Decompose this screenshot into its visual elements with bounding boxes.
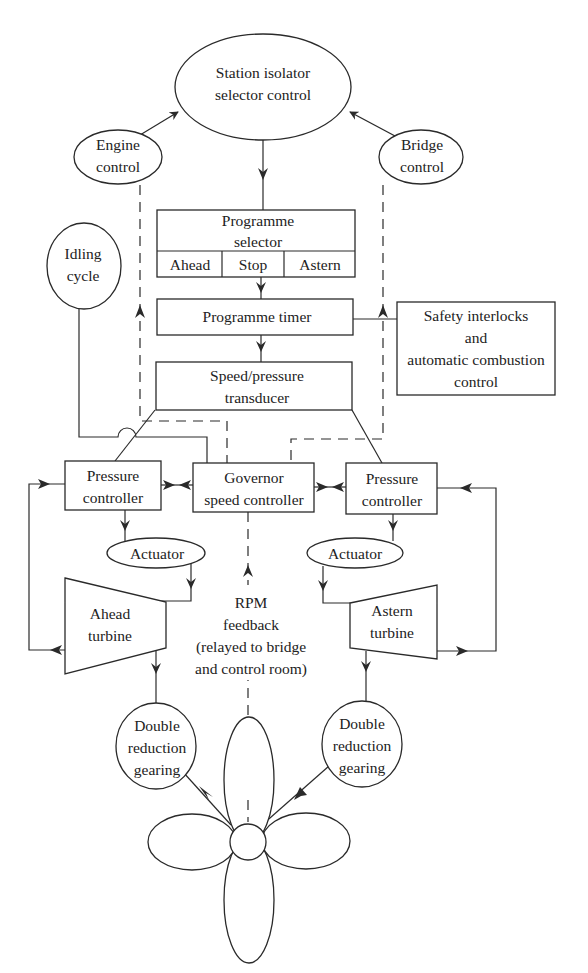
loop-right (437, 488, 496, 651)
label: speed controller (204, 491, 304, 508)
node-pressure-controller-right: Pressure controller (346, 463, 437, 514)
label: transducer (225, 389, 290, 406)
label: Engine (96, 136, 140, 153)
label: Pressure (87, 467, 140, 484)
label: Double (134, 717, 180, 734)
option-stop: Stop (239, 256, 268, 273)
node-station-isolator: Station isolator selector control (175, 34, 351, 140)
label: and (465, 329, 488, 346)
label: control (400, 158, 444, 175)
label: Idling (64, 245, 101, 262)
label: Actuator (328, 545, 383, 562)
label: Ahead (90, 605, 131, 622)
label: Bridge (401, 136, 443, 153)
node-actuator-right: Actuator (307, 538, 403, 568)
node-programme-selector: Programme selector Ahead Stop Astern (157, 210, 355, 277)
label: selector (234, 233, 283, 250)
node-safety-interlocks: Safety interlocks and automatic combusti… (397, 302, 555, 395)
label: (relayed to bridge (196, 638, 306, 656)
node-pressure-controller-left: Pressure controller (65, 461, 161, 510)
loop-left (29, 484, 66, 650)
node-actuator-left: Actuator (107, 538, 205, 568)
arrow-engine-to-isolator (140, 112, 178, 135)
label: Actuator (130, 545, 185, 562)
label: automatic combustion (407, 351, 545, 368)
line-transducer-to-pc-left (115, 410, 155, 461)
label: Governor (224, 469, 284, 486)
label: feedback (223, 616, 279, 633)
node-idling-cycle: Idling cycle (47, 223, 121, 309)
node-gearing-left: Double reduction gearing (116, 703, 196, 789)
line-actuator-to-astern (323, 566, 350, 603)
label: turbine (370, 624, 414, 641)
label: Pressure (366, 470, 419, 487)
label: control (96, 158, 140, 175)
label: reduction (128, 739, 187, 756)
label: gearing (134, 761, 181, 778)
label: selector control (215, 86, 311, 103)
label: Double (339, 715, 385, 732)
option-astern: Astern (299, 256, 341, 273)
label: RPM (235, 594, 268, 611)
node-ahead-turbine: Ahead turbine (65, 578, 166, 674)
node-programme-timer: Programme timer (157, 299, 353, 335)
label: reduction (333, 737, 392, 754)
label: and control room) (195, 660, 307, 678)
label: control (454, 373, 498, 390)
arrow-bridge-to-isolator (350, 112, 395, 136)
option-ahead: Ahead (170, 256, 211, 273)
label: Safety interlocks (424, 307, 529, 324)
label: Programme timer (203, 308, 313, 325)
node-gearing-right: Double reduction gearing (322, 701, 402, 787)
node-engine-control: Engine control (74, 130, 162, 184)
line-actuator-to-ahead (148, 563, 191, 601)
label: Programme (222, 212, 294, 229)
rpm-feedback-label: RPM feedback (relayed to bridge and cont… (195, 594, 307, 678)
label: Speed/pressure (210, 367, 304, 384)
label: controller (362, 492, 423, 509)
label: controller (83, 489, 144, 506)
label: Station isolator (216, 64, 311, 81)
label: cycle (67, 267, 100, 284)
control-diagram: Station isolator selector control Engine… (0, 0, 588, 973)
label: Astern (371, 602, 413, 619)
node-speed-pressure-transducer: Speed/pressure transducer (156, 362, 352, 410)
label: gearing (339, 759, 386, 776)
label: turbine (88, 627, 132, 644)
node-governor-speed-controller: Governor speed controller (193, 463, 314, 512)
node-bridge-control: Bridge control (379, 130, 463, 184)
line-transducer-to-pc-right (352, 410, 382, 463)
node-astern-turbine: Astern turbine (350, 585, 437, 659)
